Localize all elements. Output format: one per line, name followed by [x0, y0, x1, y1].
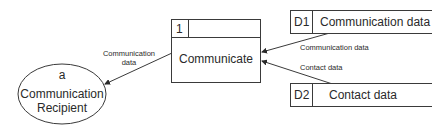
- data-flow-diagram: 1 Communicate D1 Communication data D2 C…: [0, 0, 443, 127]
- flow-label: Contact data: [300, 63, 343, 72]
- external-entity-id: a: [59, 68, 66, 82]
- flow-label-line1: Communication: [103, 49, 155, 58]
- flow-d2-to-process[interactable]: Contact data: [262, 61, 343, 84]
- process-label: Communicate: [179, 52, 253, 66]
- process-communicate[interactable]: 1 Communicate: [172, 20, 261, 83]
- data-store-id: D2: [294, 88, 310, 102]
- data-store-d2[interactable]: D2 Contact data: [290, 84, 432, 107]
- external-entity-communication-recipient[interactable]: a Communication Recipient: [18, 64, 106, 124]
- process-id: 1: [176, 22, 183, 36]
- process-box: [172, 20, 261, 83]
- flow-label-line2: data: [122, 58, 137, 67]
- data-store-label: Contact data: [329, 88, 397, 102]
- data-store-label: Communication data: [320, 15, 430, 29]
- data-store-d1[interactable]: D1 Communication data: [290, 11, 432, 34]
- flow-process-to-recipient[interactable]: Communication data: [103, 49, 172, 84]
- external-entity-label-line1: Communication: [20, 87, 103, 101]
- data-store-id: D1: [294, 15, 310, 29]
- flow-d1-to-process[interactable]: Communication data: [262, 34, 370, 53]
- external-entity-label-line2: Recipient: [37, 101, 88, 115]
- flow-label: Communication data: [300, 43, 370, 52]
